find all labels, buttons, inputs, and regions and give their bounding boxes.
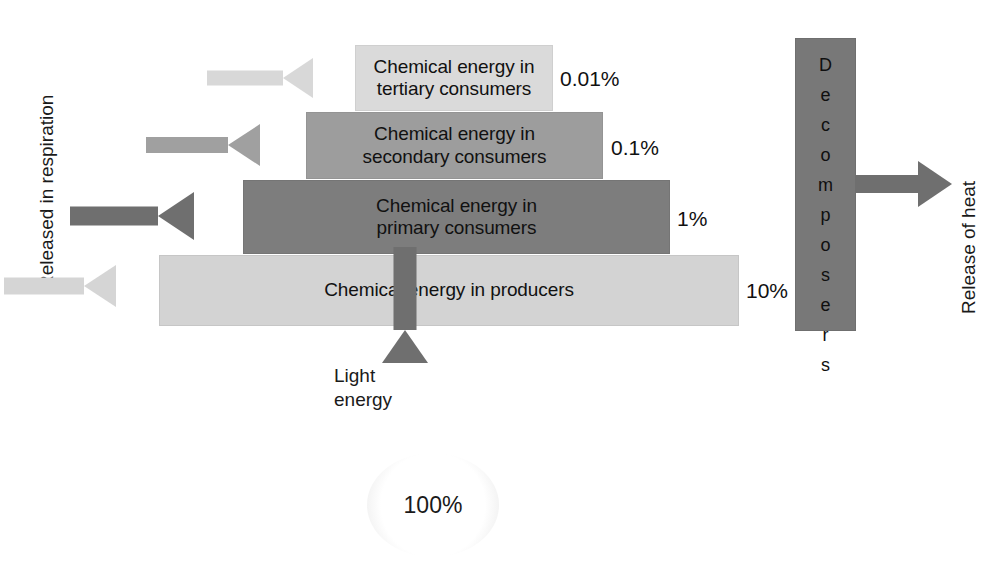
tier-producers: Chemical energy in producers bbox=[159, 255, 739, 326]
tier-secondary-label: Chemical energy in secondary consumers bbox=[357, 123, 553, 168]
tier-primary-consumers: Chemical energy in primary consumers bbox=[243, 180, 670, 254]
arrow-head bbox=[918, 161, 952, 207]
decomposers-letter: r bbox=[823, 320, 829, 350]
decomposers-letter: e bbox=[820, 80, 830, 110]
decomposers-letter: s bbox=[821, 350, 830, 380]
percent-secondary-consumers: 0.1% bbox=[611, 136, 659, 160]
release-of-heat-label: Release of heat bbox=[958, 181, 980, 314]
sun-icon: 100% bbox=[367, 453, 499, 557]
sun-percent-value: 100% bbox=[404, 492, 463, 519]
decomposers-letter: e bbox=[820, 290, 830, 320]
arrow-head bbox=[228, 124, 260, 166]
arrow-shaft bbox=[207, 71, 283, 86]
arrow-shaft bbox=[70, 207, 158, 226]
light-energy-label: Light energy bbox=[334, 364, 392, 412]
tier-primary-label: Chemical energy in primary consumers bbox=[370, 195, 543, 240]
energy-pyramid-diagram: Released in respiration Chemical energy … bbox=[0, 0, 1004, 576]
decomposers-letter: p bbox=[820, 200, 830, 230]
tier-tertiary-label: Chemical energy in tertiary consumers bbox=[368, 56, 541, 101]
decomposers-letter: o bbox=[820, 230, 830, 260]
arrow-shaft bbox=[146, 137, 228, 153]
decomposers-letter: c bbox=[821, 110, 830, 140]
decomposers-letter: m bbox=[818, 170, 833, 200]
tier-secondary-consumers: Chemical energy in secondary consumers bbox=[306, 112, 603, 179]
decomposers-letter: s bbox=[821, 260, 830, 290]
arrow-head bbox=[283, 58, 313, 98]
arrow-head bbox=[84, 265, 116, 307]
tier-producers-label: Chemical energy in producers bbox=[318, 279, 580, 301]
percent-producers: 10% bbox=[746, 279, 788, 303]
released-in-respiration-label: Released in respiration bbox=[36, 95, 58, 289]
percent-tertiary-consumers: 0.01% bbox=[560, 67, 620, 91]
arrow-shaft bbox=[4, 278, 84, 295]
decomposers-box: D e c o m p o s e r s bbox=[795, 38, 856, 331]
decomposers-letter: D bbox=[819, 50, 832, 80]
arrow-head bbox=[382, 330, 428, 363]
decomposers-letter: o bbox=[820, 140, 830, 170]
arrow-shaft bbox=[856, 175, 918, 193]
tier-tertiary-consumers: Chemical energy in tertiary consumers bbox=[355, 45, 553, 111]
percent-primary-consumers: 1% bbox=[677, 207, 707, 231]
arrow-shaft bbox=[394, 247, 417, 330]
arrow-head bbox=[158, 192, 194, 240]
